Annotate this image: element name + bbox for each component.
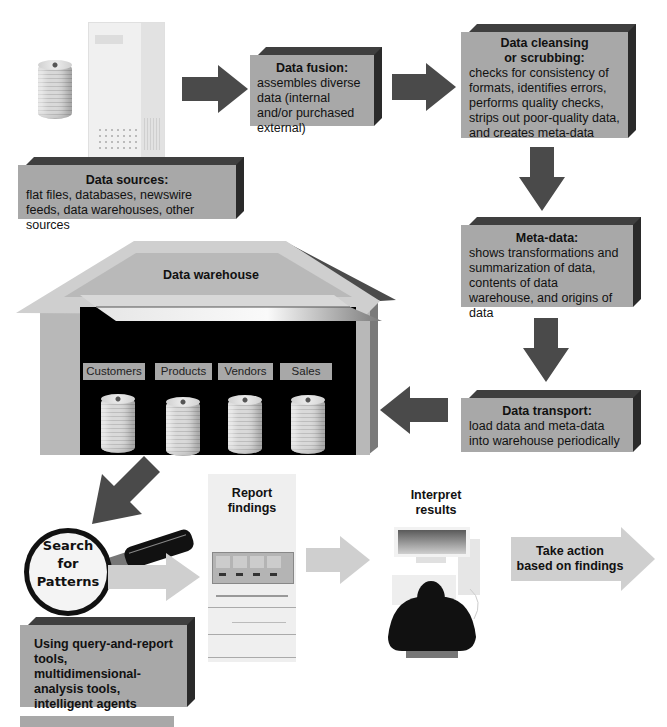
arrow-right-icon bbox=[182, 65, 248, 113]
partial-box-bottom bbox=[20, 716, 174, 727]
data-cleansing-box: Data cleansing or scrubbing: checks for … bbox=[461, 32, 628, 138]
vendors-disk-icon bbox=[228, 398, 262, 454]
data-fusion-description: assembles diverse data (internal and/or … bbox=[257, 76, 367, 136]
sales-disk-icon bbox=[291, 398, 325, 454]
report-findings-line1: Report bbox=[208, 486, 296, 501]
arrow-right-icon bbox=[392, 63, 456, 111]
take-action-arrow: Take action based on findings bbox=[511, 527, 655, 591]
data-fusion-box: Data fusion: assembles diverse data (int… bbox=[250, 55, 374, 126]
arrow-right-icon bbox=[306, 536, 370, 584]
products-disk-icon bbox=[166, 400, 200, 456]
take-action-line2: based on findings bbox=[511, 559, 629, 574]
warehouse-bin-sales: Sales bbox=[280, 363, 332, 380]
data-transport-title: Data transport: bbox=[469, 404, 625, 419]
meta-data-box: Meta-data: shows transformations and sum… bbox=[461, 225, 633, 307]
data-cleansing-title-line2: or scrubbing: bbox=[469, 51, 620, 66]
search-label-line3: Patterns bbox=[28, 573, 108, 591]
disk-stack-icon bbox=[38, 63, 72, 117]
analysis-tools-description: Using query-and-report tools, multidimen… bbox=[34, 637, 173, 712]
interpret-results-line1: Interpret bbox=[396, 488, 476, 503]
report-findings-line2: findings bbox=[208, 501, 296, 516]
search-label-line2: for bbox=[28, 555, 108, 573]
data-sources-box: Data sources: flat files, databases, new… bbox=[18, 165, 236, 219]
analysis-tools-box: Using query-and-report tools, multidimen… bbox=[20, 625, 187, 707]
data-sources-description: flat files, databases, newswire feeds, d… bbox=[26, 188, 228, 233]
data-fusion-title: Data fusion: bbox=[257, 61, 367, 76]
data-warehouse: Data warehouse Customers Products Vendor… bbox=[16, 235, 396, 460]
warehouse-bin-customers: Customers bbox=[83, 363, 145, 380]
arrow-down-icon bbox=[519, 147, 565, 211]
server-tower-icon bbox=[88, 22, 165, 162]
search-label-line1: Search bbox=[28, 537, 108, 555]
report-findings: Report findings bbox=[208, 474, 296, 662]
data-cleansing-title-line1: Data cleansing bbox=[469, 36, 620, 51]
arrow-down-icon bbox=[523, 318, 569, 382]
warehouse-bin-vendors: Vendors bbox=[218, 363, 273, 380]
meta-data-title: Meta-data: bbox=[469, 231, 625, 246]
meta-data-description: shows transformations and summarization … bbox=[469, 246, 625, 321]
report-panel bbox=[212, 552, 294, 584]
data-cleansing-description: checks for consistency of formats, ident… bbox=[469, 66, 620, 141]
data-warehouse-title: Data warehouse bbox=[136, 268, 286, 282]
data-sources-title: Data sources: bbox=[26, 173, 228, 188]
data-transport-box: Data transport: load data and meta-data … bbox=[461, 398, 633, 452]
computer-user-icon bbox=[388, 527, 518, 669]
warehouse-bin-products: Products bbox=[155, 363, 212, 380]
take-action-line1: Take action bbox=[511, 544, 629, 559]
arrow-right-icon bbox=[108, 553, 200, 601]
customers-disk-icon bbox=[101, 397, 135, 453]
interpret-results-line2: results bbox=[396, 503, 476, 518]
data-transport-description: load data and meta-data into warehouse p… bbox=[469, 419, 625, 449]
